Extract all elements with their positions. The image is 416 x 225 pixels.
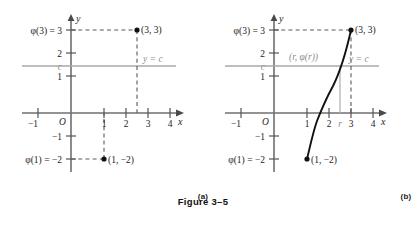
y-tick-label-neg1-a: −1	[52, 132, 62, 142]
x-tick-label-2-b: 2	[327, 119, 332, 129]
y-tick-label-2-a: 2	[57, 49, 62, 59]
y-tick-label-1-b: 1	[260, 72, 265, 82]
y-tick-label-1-a: 1	[57, 72, 62, 82]
x-tick-label-neg1-b: −1	[231, 119, 241, 129]
plot-a: x y O −1 1 2 3 4 2 c 1 −1 φ(3) = 3 φ(1) …	[0, 0, 203, 192]
solution-curve-b	[307, 30, 351, 159]
y-tick-label-c-b: c	[261, 62, 266, 72]
origin-label-b: O	[262, 117, 269, 127]
x-axis-label-b: x	[380, 116, 386, 127]
data-point-3-3-a	[134, 27, 139, 32]
data-point-1-neg2-a	[101, 156, 106, 161]
x-tick-label-4-a: 4	[168, 119, 173, 129]
curve-point-label-b: (r, φ(r))	[289, 52, 318, 63]
point-label-1-neg2-a: (1, −2)	[108, 155, 134, 166]
figure-caption: Figure 3–5	[0, 196, 406, 207]
line-label-y-equals-c-a: y = c	[142, 54, 163, 64]
y-axis-label-a: y	[75, 13, 81, 24]
y-tick-label-c-a: c	[58, 62, 63, 72]
point-label-3-3-b: (3, 3)	[355, 25, 376, 36]
panel-a: x y O −1 1 2 3 4 2 c 1 −1 φ(3) = 3 φ(1) …	[0, 0, 203, 200]
y-tick-label-2-b: 2	[260, 49, 265, 59]
data-point-1-neg2-b	[304, 156, 309, 161]
y-tick-label-neg1-b: −1	[255, 132, 265, 142]
x-tick-label-3-a: 3	[146, 119, 151, 129]
x-tick-label-1-a: 1	[102, 119, 107, 129]
x-tick-label-2-a: 2	[124, 119, 129, 129]
point-label-3-3-a: (3, 3)	[141, 25, 162, 36]
origin-label-a: O	[59, 117, 66, 127]
phi3-label-a: φ(3) = 3	[31, 26, 63, 37]
panel-b: x y O −1 1 2 r 3 4 2 c 1 −1 φ(3) = 3 φ(1…	[203, 0, 406, 200]
plot-b: x y O −1 1 2 r 3 4 2 c 1 −1 φ(3) = 3 φ(1…	[203, 0, 406, 192]
phi3-label-b: φ(3) = 3	[234, 26, 266, 37]
y-axis-label-b: y	[278, 13, 284, 24]
x-axis-label-a: x	[177, 116, 183, 127]
phi1-label-a: φ(1) = −2	[25, 155, 62, 166]
x-tick-label-r-b: r	[338, 119, 342, 129]
x-tick-label-3-b: 3	[349, 119, 354, 129]
line-label-y-equals-c-b: y = c	[348, 54, 369, 64]
point-label-1-neg2-b: (1, −2)	[311, 155, 337, 166]
x-tick-label-neg1-a: −1	[28, 119, 38, 129]
y-axis-arrow-b	[271, 14, 278, 21]
x-tick-label-1-b: 1	[305, 119, 310, 129]
data-point-3-3-b	[348, 27, 353, 32]
x-tick-label-4-b: 4	[371, 119, 376, 129]
phi1-label-b: φ(1) = −2	[228, 155, 265, 166]
y-axis-arrow-a	[68, 14, 75, 21]
